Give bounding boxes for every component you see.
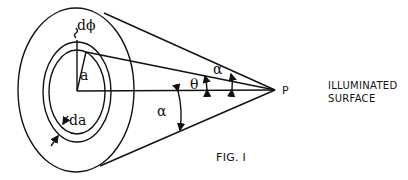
figure-caption: FIG. I — [216, 152, 246, 163]
label-theta: θ — [190, 77, 198, 91]
theta-arc — [205, 76, 207, 90]
figure-canvas: dϕ a da θ α α P ILLUMINATED SURFACE FIG.… — [0, 0, 408, 180]
side-label-line1: ILLUMINATED — [328, 81, 397, 91]
label-da: da — [69, 113, 86, 127]
label-alpha-lower: α — [157, 104, 166, 118]
ring-arrow — [51, 136, 58, 146]
side-label-line2: SURFACE — [328, 94, 376, 104]
axis-line — [77, 90, 275, 91]
alpha-lower-arc — [178, 91, 181, 130]
ring-ray-line — [86, 52, 275, 90]
alpha-upper-arc — [231, 74, 232, 90]
label-dphi: dϕ — [77, 18, 96, 32]
label-point-p: P — [282, 85, 289, 96]
cone-lower-line — [100, 90, 275, 166]
label-a: a — [80, 68, 88, 82]
label-alpha-upper: α — [213, 62, 222, 76]
da-arrow — [63, 116, 68, 124]
